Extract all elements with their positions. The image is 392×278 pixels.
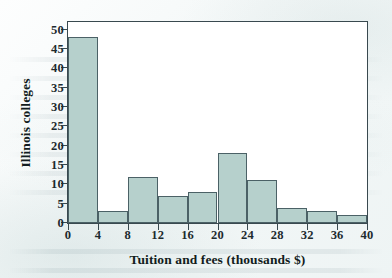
y-axis-tick-label: 10 bbox=[51, 178, 64, 191]
x-axis-tick-label: 0 bbox=[65, 229, 71, 242]
histogram-bar bbox=[188, 192, 218, 223]
y-axis-tick-label: 15 bbox=[51, 159, 64, 172]
histogram-bar bbox=[128, 177, 158, 223]
histogram-bar bbox=[247, 180, 277, 223]
x-axis-tick-label: 24 bbox=[241, 229, 254, 242]
x-axis-tick-label: 28 bbox=[271, 229, 284, 242]
histogram-bar bbox=[307, 211, 337, 223]
plot-area: 051015202530354045500481216202428323640 bbox=[67, 21, 368, 224]
y-axis-title: Illinois colleges bbox=[17, 21, 35, 224]
y-axis-tick-label: 25 bbox=[51, 120, 64, 133]
y-axis-tick-label: 5 bbox=[58, 197, 64, 210]
y-axis-tick-label: 45 bbox=[51, 43, 64, 56]
y-axis-tick-label: 35 bbox=[51, 81, 64, 94]
y-axis-tick-label: 30 bbox=[51, 101, 64, 114]
x-axis-tick-label: 32 bbox=[301, 229, 314, 242]
x-axis-tick-label: 40 bbox=[361, 229, 374, 242]
histogram-bar bbox=[337, 215, 367, 223]
histogram-bars bbox=[68, 22, 367, 223]
y-axis-tick-label: 40 bbox=[51, 62, 64, 75]
y-axis-tick-label: 20 bbox=[51, 139, 64, 152]
x-axis-tick-label: 12 bbox=[151, 229, 164, 242]
x-axis-tick-label: 8 bbox=[125, 229, 131, 242]
x-axis-tick-label: 36 bbox=[331, 229, 344, 242]
y-axis-tick-label: 0 bbox=[58, 217, 64, 230]
y-axis-title-text: Illinois colleges bbox=[18, 78, 34, 167]
y-axis-tick-label: 50 bbox=[51, 23, 64, 36]
histogram-bar bbox=[98, 211, 128, 223]
x-axis-tick-label: 16 bbox=[181, 229, 194, 242]
x-axis-tick-label: 20 bbox=[211, 229, 224, 242]
histogram-bar bbox=[158, 196, 188, 223]
chart-page: Illinois colleges 0510152025303540455004… bbox=[0, 0, 392, 278]
histogram-bar bbox=[277, 208, 307, 223]
histogram-bar bbox=[68, 37, 98, 223]
histogram-bar bbox=[218, 153, 248, 223]
x-axis-tick-label: 4 bbox=[95, 229, 101, 242]
x-axis-title: Tuition and fees (thousands $) bbox=[67, 252, 368, 268]
